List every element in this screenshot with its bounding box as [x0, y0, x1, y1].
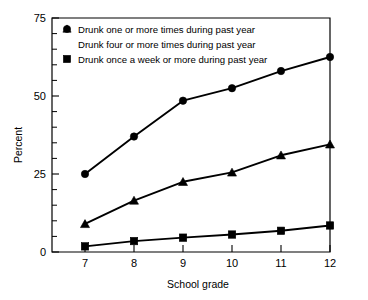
square-marker-icon [326, 222, 333, 229]
y-tick-label-75: 75 [34, 12, 46, 24]
x-tick-label-11: 11 [275, 257, 286, 269]
square-marker-icon [228, 231, 235, 238]
circle-marker-icon [130, 133, 137, 140]
y-tick-label-0: 0 [40, 246, 46, 258]
x-tick-label-9: 9 [180, 257, 186, 269]
chart-figure: 75 50 25 0 Percent 7 8 9 10 11 12 School… [0, 0, 368, 300]
legend-entry-square: Drunk once a week or more during past ye… [63, 54, 268, 65]
x-axis-title: School grade [167, 278, 229, 290]
legend-label-circle: Drunk one or more times during past year [78, 24, 256, 35]
x-tick-label-10: 10 [226, 257, 238, 269]
y-tick-label-50: 50 [34, 90, 46, 102]
square-marker-icon [130, 237, 137, 244]
legend-label-square: Drunk once a week or more during past ye… [78, 54, 268, 65]
square-marker-icon [81, 243, 88, 250]
square-marker-icon [277, 227, 284, 234]
circle-marker-icon [277, 67, 284, 74]
square-marker-icon [179, 234, 186, 241]
y-tick-label-25: 25 [34, 168, 46, 180]
circle-marker-icon [81, 170, 88, 177]
y-axis-title: Percent [12, 127, 24, 163]
square-marker-icon [63, 55, 70, 62]
legend-label-triangle: Drunk four or more times during past yea… [78, 39, 256, 50]
circle-marker-icon [228, 85, 235, 92]
x-tick-label-8: 8 [131, 257, 137, 269]
line-chart: 75 50 25 0 Percent 7 8 9 10 11 12 School… [0, 0, 368, 300]
chart-legend: Drunk one or more times during past year… [63, 24, 268, 65]
circle-marker-icon [326, 53, 333, 60]
x-tick-label-12: 12 [324, 257, 336, 269]
legend-entry-circle: Drunk one or more times during past year [63, 24, 255, 35]
circle-marker-icon [179, 97, 186, 104]
x-tick-label-7: 7 [82, 257, 88, 269]
